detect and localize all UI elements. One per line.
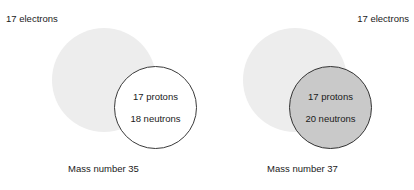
proton-count-label: 17 protons [308, 91, 353, 103]
electron-cloud-circle: 17 protons 18 neutrons [52, 28, 156, 132]
proton-count-label: 17 protons [133, 91, 178, 103]
atom-diagram-chlorine-37: 17 electrons 17 protons 20 neutrons Mass… [207, 0, 414, 190]
electron-count-label: 17 electrons [6, 13, 58, 25]
atom-diagram-chlorine-35: 17 electrons 17 protons 18 neutrons Mass… [0, 0, 207, 190]
electron-cloud-circle: 17 protons 20 neutrons [243, 28, 347, 132]
electron-count-label: 17 electrons [357, 13, 409, 25]
mass-number-caption: Mass number 35 [0, 163, 207, 175]
nucleus-circle: 17 protons 18 neutrons [114, 66, 197, 149]
neutron-count-label: 20 neutrons [305, 113, 355, 125]
nucleus-circle: 17 protons 20 neutrons [289, 66, 372, 149]
neutron-count-label: 18 neutrons [130, 113, 180, 125]
isotope-diagram-figure: 17 electrons 17 protons 18 neutrons Mass… [0, 0, 414, 190]
mass-number-caption: Mass number 37 [199, 163, 406, 175]
